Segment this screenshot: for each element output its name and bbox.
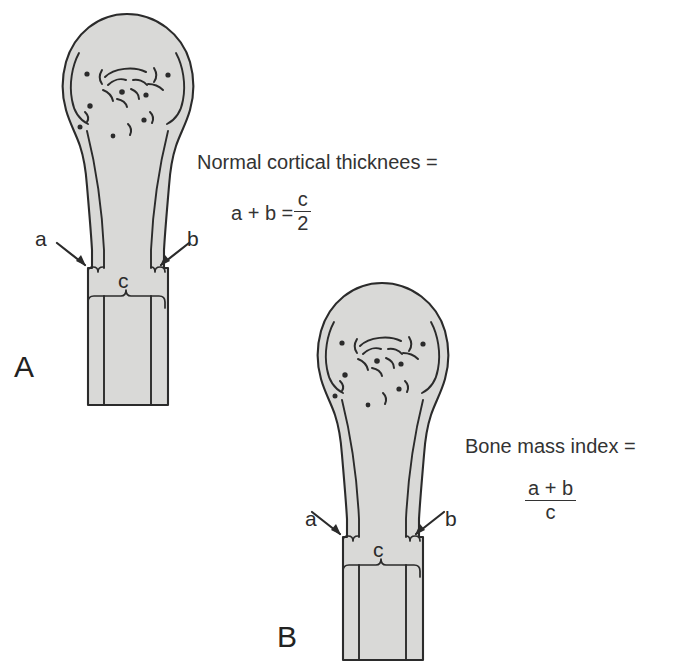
normal-cortical-thickness-equation: a + b = c 2 xyxy=(231,190,312,235)
panel-b-letter: B xyxy=(277,622,297,652)
panel-a-label-c: c xyxy=(118,270,129,291)
fraction-denominator: c xyxy=(525,501,576,523)
fraction-a-plus-b-over-c: a + b c xyxy=(525,478,576,523)
fraction-c-over-2: c 2 xyxy=(294,189,311,234)
fraction-numerator: c xyxy=(294,189,311,212)
panel-a-label-a: a xyxy=(35,228,47,249)
normal-cortical-thickness-heading: Normal cortical thicknees = xyxy=(197,152,438,172)
panel-b-label-c: c xyxy=(373,539,384,560)
panel-a-leader-a xyxy=(57,243,86,266)
panel-a-bone xyxy=(57,14,193,405)
bone-mass-index-equation: a + b c xyxy=(524,479,577,524)
panel-a-bone-outline xyxy=(63,14,194,405)
bone-illustration-svg xyxy=(0,0,673,671)
fraction-numerator: a + b xyxy=(525,478,576,501)
panel-b-bone xyxy=(312,283,448,660)
bone-mass-index-heading: Bone mass index = xyxy=(465,436,636,456)
panel-a-label-b: b xyxy=(187,228,199,249)
panel-b-label-b: b xyxy=(445,508,457,529)
equation-lhs: a + b = xyxy=(231,203,293,223)
panel-b-label-a: a xyxy=(305,508,317,529)
fraction-denominator: 2 xyxy=(294,212,311,234)
panel-b-bone-outline xyxy=(318,283,449,660)
bone-measurement-figure: a b c A a b c B Normal cortical thicknee… xyxy=(0,0,673,671)
panel-a-letter: A xyxy=(14,352,34,382)
